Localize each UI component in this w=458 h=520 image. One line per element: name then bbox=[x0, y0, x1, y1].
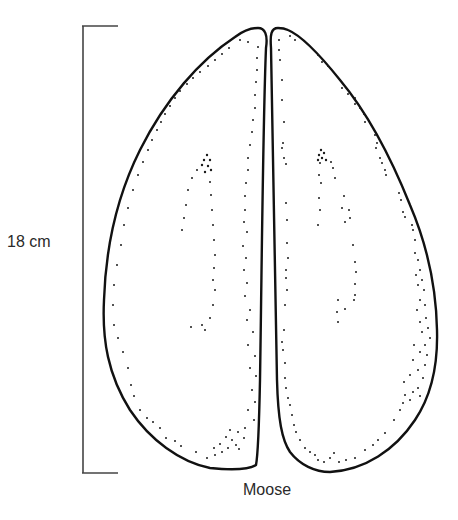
scale-label: 18 cm bbox=[7, 233, 51, 251]
moose-track-figure: 18 cm Moose bbox=[0, 0, 458, 520]
scale-bar bbox=[82, 26, 118, 473]
left-hoof-stipple bbox=[112, 39, 259, 459]
right-hoof-outline bbox=[271, 28, 437, 472]
track-drawing bbox=[0, 0, 458, 520]
left-hoof-outline bbox=[104, 28, 267, 469]
figure-caption: Moose bbox=[243, 481, 291, 499]
